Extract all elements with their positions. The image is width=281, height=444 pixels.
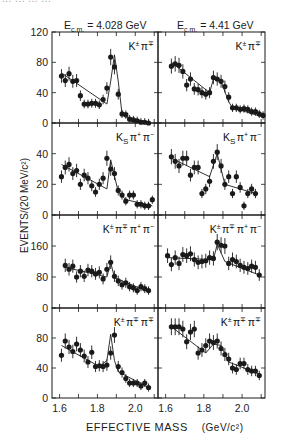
data-point — [260, 113, 265, 118]
data-point — [78, 347, 83, 352]
data-point — [74, 78, 79, 83]
data-point — [215, 150, 220, 155]
data-point — [123, 280, 128, 285]
data-point — [66, 162, 71, 167]
data-point — [131, 192, 136, 197]
data-point — [104, 362, 109, 367]
data-point — [218, 79, 223, 84]
data-point — [203, 186, 208, 191]
data-point — [74, 168, 79, 173]
y-tick-label: 80 — [36, 271, 48, 283]
x-axis-unit: (GeV/c²) — [202, 422, 244, 433]
data-point — [123, 199, 128, 204]
data-point — [146, 385, 151, 390]
data-point — [245, 191, 250, 196]
data-point — [142, 380, 147, 385]
x-tick-label: 1.8 — [197, 402, 212, 414]
data-point — [188, 251, 193, 256]
data-point — [78, 182, 83, 187]
panel-row2-right: KSπ+π− — [158, 123, 265, 215]
data-point — [112, 274, 117, 279]
data-point — [176, 261, 181, 266]
data-point — [222, 352, 227, 357]
data-point — [146, 203, 151, 208]
data-point — [112, 64, 117, 69]
data-point — [89, 350, 94, 355]
data-point — [257, 373, 262, 378]
data-point — [234, 174, 239, 179]
data-point — [116, 364, 121, 369]
data-point — [116, 188, 121, 193]
channel-label: K±π∓ — [128, 40, 154, 52]
data-point — [59, 174, 64, 179]
data-point — [123, 376, 128, 381]
data-point — [169, 154, 174, 159]
data-point — [165, 253, 170, 258]
panel-row3-right: K±π∓π+π− — [158, 215, 265, 308]
panel-row4-right: K±π∓π∓ — [158, 308, 265, 398]
data-point — [257, 272, 262, 277]
y-tick-label: 80 — [36, 332, 48, 344]
channel-label: KSπ+π− — [116, 131, 154, 146]
data-point — [116, 278, 121, 283]
data-point — [173, 159, 178, 164]
y-tick-label: 120 — [30, 26, 48, 38]
panel-row1-right: K±π∓ — [158, 32, 266, 123]
data-point — [211, 256, 216, 261]
data-point — [63, 78, 68, 83]
y-tick-label: 20 — [36, 178, 48, 190]
data-point — [253, 368, 258, 373]
y-tick-label: 0 — [42, 209, 48, 221]
data-point — [135, 288, 140, 293]
data-point — [66, 344, 71, 349]
data-point — [207, 90, 212, 95]
x-axis-label: EFFECTIVE MASS(GeV/c²) — [86, 421, 244, 433]
data-point — [108, 166, 113, 171]
data-point — [93, 189, 98, 194]
y-tick-label: 40 — [36, 87, 48, 99]
y-tick-label: 0 — [42, 117, 48, 129]
y-tick-label: 0 — [42, 302, 48, 314]
data-point — [222, 84, 227, 89]
x-tick-label: 2.0 — [235, 402, 250, 414]
data-point — [222, 243, 227, 248]
data-point — [59, 353, 64, 358]
data-point — [188, 173, 193, 178]
data-point — [108, 54, 113, 59]
data-point — [59, 73, 64, 78]
data-point — [226, 174, 231, 179]
fit-curve — [171, 327, 259, 374]
data-point — [199, 347, 204, 352]
data-point — [238, 185, 243, 190]
data-point — [241, 361, 246, 366]
y-tick-label: 160 — [30, 240, 48, 252]
data-point — [211, 159, 216, 164]
data-point — [70, 349, 75, 354]
data-point — [253, 265, 258, 270]
data-point — [104, 156, 109, 161]
y-tick-label: 40 — [36, 362, 48, 374]
data-point — [74, 341, 79, 346]
data-point — [119, 192, 124, 197]
x-axis-title: EFFECTIVE MASS — [86, 421, 188, 433]
data-point — [249, 186, 254, 191]
data-point — [101, 97, 106, 102]
data-point — [101, 276, 106, 281]
data-point — [226, 261, 231, 266]
data-point — [85, 359, 90, 364]
x-tick-label: 1.6 — [52, 402, 67, 414]
data-point — [192, 326, 197, 331]
fit-curve — [61, 160, 152, 206]
data-point — [97, 270, 102, 275]
data-point — [169, 262, 174, 267]
data-point — [173, 255, 178, 260]
channel-label: K±π∓π∓ — [221, 316, 261, 328]
data-point — [226, 356, 231, 361]
data-point — [101, 176, 106, 181]
data-point — [108, 260, 113, 265]
data-point — [150, 197, 155, 202]
data-point — [253, 191, 258, 196]
data-point — [97, 182, 102, 187]
data-point — [85, 176, 90, 181]
data-point — [78, 93, 83, 98]
